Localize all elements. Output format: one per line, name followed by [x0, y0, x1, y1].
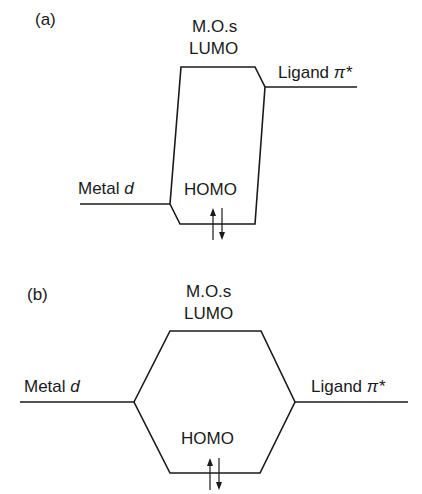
pi-star-symbol: π*	[334, 63, 352, 82]
ligand-text: Ligand	[278, 63, 334, 82]
mo-outline-a	[170, 67, 265, 224]
mo-diagram-canvas	[0, 0, 422, 494]
mos-title-b: M.O.s	[186, 283, 231, 300]
homo-label-a: HOMO	[184, 181, 237, 198]
metal-text: Metal	[78, 179, 124, 198]
ligand-pi-label-b: Ligand π*	[311, 378, 385, 395]
metal-d-label-b: Metal d	[24, 378, 80, 395]
panel-label-b: (b)	[27, 286, 48, 303]
metal-text: Metal	[24, 377, 70, 396]
mo-outline-b	[134, 331, 295, 473]
pi-star-symbol: π*	[367, 377, 385, 396]
homo-label-b: HOMO	[181, 430, 234, 447]
panel-b-lines	[20, 331, 408, 473]
metal-d-label-a: Metal d	[78, 180, 134, 197]
d-symbol: d	[70, 377, 79, 396]
panel-a-lines	[80, 67, 357, 224]
panel-label-a: (a)	[35, 11, 56, 28]
mos-title-a: M.O.s	[192, 18, 237, 35]
ligand-pi-label-a: Ligand π*	[278, 64, 352, 81]
lumo-label-b: LUMO	[184, 305, 233, 322]
d-symbol: d	[124, 179, 133, 198]
lumo-label-a: LUMO	[189, 40, 238, 57]
ligand-text: Ligand	[311, 377, 367, 396]
electron-pair-b	[207, 458, 222, 490]
